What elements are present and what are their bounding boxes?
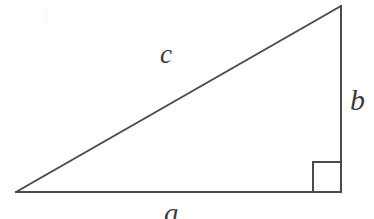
right-triangle-diagram: c b a — [0, 0, 374, 219]
side-label-a: a — [164, 199, 179, 219]
right-angle-square-icon — [313, 162, 341, 192]
triangle-figure — [0, 0, 374, 219]
side-c-line — [16, 6, 341, 192]
side-label-c: c — [160, 41, 172, 68]
scan-artifact-speck — [41, 8, 48, 24]
side-label-b: b — [350, 85, 365, 115]
